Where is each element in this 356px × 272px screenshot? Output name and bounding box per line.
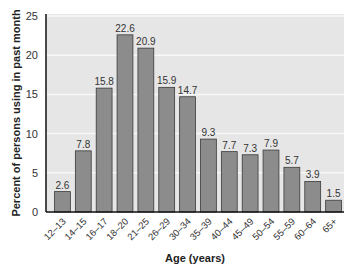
bar-value-label: 14.7 (178, 85, 198, 96)
bar (159, 87, 175, 212)
bar-value-label: 1.5 (327, 188, 341, 199)
bar (263, 150, 279, 212)
y-tick-label: 10 (26, 128, 38, 140)
bar (326, 200, 342, 212)
bar-chart: 2.67.815.822.620.915.914.79.37.77.37.95.… (0, 0, 356, 272)
y-tick-label: 25 (26, 10, 38, 22)
bar-value-label: 15.9 (157, 75, 177, 86)
bar (242, 155, 258, 212)
x-tick-label: 55–59 (271, 216, 297, 242)
y-tick-label: 0 (32, 206, 38, 218)
x-tick-label: 45–49 (229, 216, 255, 242)
x-tick-label: 21–25 (125, 216, 151, 242)
bar-value-label: 5.7 (285, 155, 299, 166)
x-tick-label: 35–39 (187, 216, 213, 242)
x-tick-label: 16–17 (83, 216, 109, 242)
bar (75, 151, 91, 212)
x-tick-label: 12–13 (41, 216, 67, 242)
bar-value-label: 7.3 (243, 143, 257, 154)
x-tick-label: 40–44 (208, 216, 234, 242)
x-tick-label: 26–29 (146, 216, 172, 242)
x-tick-label: 30–34 (167, 216, 193, 242)
bar-value-label: 7.7 (222, 140, 236, 151)
x-tick-labels: 12–1314–1516–1718–2021–2526–2930–3435–39… (41, 215, 339, 242)
x-tick-label: 14–15 (62, 216, 88, 242)
bar-value-label: 9.3 (201, 127, 215, 138)
bar (138, 48, 154, 212)
x-tick-label: 60–64 (292, 216, 318, 242)
bar (284, 167, 300, 212)
bar-value-label: 20.9 (136, 36, 156, 47)
bar-value-label: 3.9 (306, 169, 320, 180)
bar-value-label: 7.8 (76, 139, 90, 150)
bar (201, 139, 217, 212)
bar-value-label: 15.8 (94, 76, 114, 87)
y-tick-label: 5 (32, 167, 38, 179)
y-tick-label: 20 (26, 49, 38, 61)
y-tick-labels: 0510152025 (26, 10, 38, 218)
bar (96, 88, 112, 212)
x-tick-label: 50–54 (250, 216, 276, 242)
x-axis-title: Age (years) (165, 252, 225, 264)
y-axis-title: Percent of persons using in past month (10, 9, 22, 216)
bar (55, 192, 71, 212)
x-tick-label: 65+ (320, 215, 339, 234)
bar (180, 97, 196, 212)
bar-value-label: 2.6 (55, 180, 69, 191)
bar (117, 35, 133, 212)
bar-value-label: 22.6 (115, 23, 135, 34)
x-tick-label: 18–20 (104, 216, 130, 242)
bar-value-label: 7.9 (264, 138, 278, 149)
bar (305, 181, 321, 212)
bar (221, 152, 237, 212)
y-tick-label: 15 (26, 88, 38, 100)
